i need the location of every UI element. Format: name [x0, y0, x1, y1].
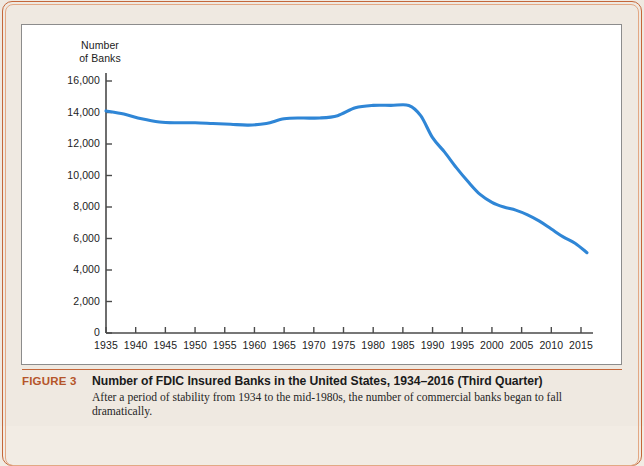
- caption-divider: [22, 369, 622, 370]
- plot-area: Number of Banks 02,0004,0006,0008,00010,…: [22, 25, 623, 366]
- y-tick-label: 12,000: [46, 137, 100, 149]
- y-tick-label: 6,000: [46, 232, 100, 244]
- y-tick-label: 2,000: [46, 295, 100, 307]
- y-tick-label: 14,000: [46, 106, 100, 118]
- caption-heading-row: FIGURE 3 Number of FDIC Insured Banks in…: [22, 374, 622, 388]
- y-tick-label: 0: [46, 326, 100, 338]
- y-tick-label: 4,000: [46, 263, 100, 275]
- figure-description: After a period of stability from 1934 to…: [92, 391, 572, 419]
- y-tick-label: 16,000: [46, 74, 100, 86]
- x-tick-label: 2015: [564, 339, 598, 351]
- y-tick-label: 10,000: [46, 169, 100, 181]
- figure-caption: FIGURE 3 Number of FDIC Insured Banks in…: [22, 374, 622, 419]
- line-chart-svg: [22, 25, 623, 366]
- figure-title: Number of FDIC Insured Banks in the Unit…: [92, 374, 543, 388]
- chart-panel: Number of Banks 02,0004,0006,0008,00010,…: [21, 24, 622, 365]
- y-tick-label: 8,000: [46, 200, 100, 212]
- figure-number-label: FIGURE 3: [22, 375, 92, 387]
